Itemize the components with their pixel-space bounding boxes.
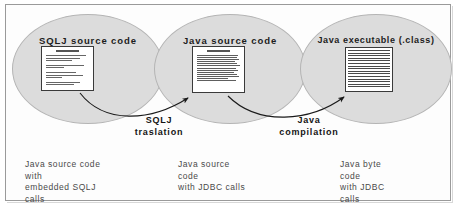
doc-title-line	[56, 50, 80, 52]
document-thumbnail-java-source	[192, 46, 245, 93]
caption-line: code	[178, 171, 245, 183]
transition-label-line1: Java	[250, 114, 368, 126]
doc-text-line	[197, 61, 235, 62]
caption-line: embedded SQLJ	[25, 182, 100, 194]
caption-line: with JDBC	[340, 182, 385, 194]
caption-line: with JDBC calls	[178, 182, 245, 194]
doc-text-line	[46, 55, 86, 56]
doc-text-line	[197, 57, 237, 58]
diagram-page: SQLJ source code Java source code	[0, 0, 458, 208]
document-thumbnail-sqlj-source	[41, 46, 94, 91]
doc-text-line	[197, 55, 238, 56]
caption-line: Java source code	[25, 159, 100, 171]
transition-label-line2: traslation	[104, 126, 214, 138]
doc-text-line	[46, 65, 84, 66]
caption-line: calls	[25, 194, 100, 206]
bytecode-hatch-pattern	[348, 50, 390, 89]
doc-title-line	[207, 50, 231, 52]
doc-text-line	[197, 78, 228, 79]
stage-label-java-source: Java source code	[155, 35, 305, 46]
stage-caption-java-source: Java source code with JDBC calls	[178, 159, 245, 194]
doc-text-line	[46, 60, 72, 61]
document-thumbnail-java-executable	[345, 47, 393, 92]
doc-text-line	[197, 59, 239, 60]
stage-caption-sqlj-source: Java source code with embedded SQLJ call…	[25, 159, 100, 205]
stage-label-sqlj-source: SQLJ source code	[13, 35, 163, 46]
stage-caption-java-executable: Java byte code with JDBC calls	[340, 159, 385, 205]
doc-text-line	[197, 65, 240, 66]
transition-label-line2: compilation	[250, 126, 368, 138]
caption-line: Java source	[178, 159, 245, 171]
doc-text-line	[46, 72, 76, 73]
doc-text-line	[197, 74, 237, 75]
doc-text-line	[197, 70, 238, 71]
doc-text-line	[46, 77, 62, 78]
doc-text-line	[197, 72, 234, 73]
doc-text-line	[46, 67, 64, 68]
caption-line: with	[25, 171, 100, 183]
doc-text-line	[46, 58, 80, 59]
caption-line: calls	[340, 194, 385, 206]
transition-label-line1: SQLJ	[104, 114, 214, 126]
doc-text-line	[197, 63, 237, 64]
caption-line: Java byte	[340, 159, 385, 171]
doc-text-line	[197, 80, 236, 81]
doc-text-line	[197, 68, 236, 69]
stage-label-java-executable: Java executable (.class)	[301, 35, 451, 45]
transition-label-java-compilation: Java compilation	[250, 114, 368, 138]
doc-text-line	[197, 76, 239, 77]
doc-text-line	[46, 82, 80, 83]
doc-text-line	[46, 75, 83, 76]
doc-text-line	[46, 84, 74, 85]
transition-label-sqlj-translation: SQLJ traslation	[104, 114, 214, 138]
caption-line: code	[340, 171, 385, 183]
